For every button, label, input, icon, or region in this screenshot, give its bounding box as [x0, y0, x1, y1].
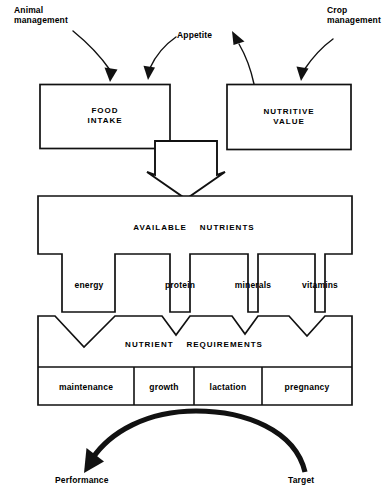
label-cell-maintenance: maintenance [40, 382, 132, 392]
diagram-vector-layer [0, 0, 389, 501]
label-channel-minerals: minerals [222, 280, 284, 290]
label-cell-lactation: lactation [196, 382, 260, 392]
label-nutrient-requirements: NUTRIENT REQUIREMENTS [64, 340, 324, 350]
arrow-target-to-performance-curve [92, 411, 305, 472]
label-crop-management: Crop management [327, 5, 381, 26]
label-target: Target [288, 475, 314, 485]
arrow-nutritive-value-to-appetite-curve [239, 44, 254, 84]
diagram-canvas: Animal management Appetite Crop manageme… [0, 0, 389, 501]
arrowhead-performance [84, 448, 104, 473]
label-performance: Performance [55, 475, 109, 485]
label-animal-management: Animal management [14, 5, 68, 26]
label-cell-growth: growth [135, 382, 193, 392]
arrow-animal-management-curve [73, 31, 110, 70]
label-nutritive-value: NUTRITIVE VALUE [231, 107, 347, 127]
arrow-appetite-to-food-intake-curve [150, 37, 176, 68]
label-cell-pregnancy: pregnancy [269, 382, 345, 392]
label-available-nutrients: AVAILABLE NUTRIENTS [74, 223, 314, 233]
label-appetite: Appetite [177, 30, 212, 40]
arrowhead-appetite-down [144, 66, 156, 80]
arrow-crop-management-curve [304, 39, 333, 70]
big-down-arrow-to-available-nutrients [147, 141, 225, 199]
label-channel-energy: energy [59, 280, 119, 290]
label-food-intake: FOOD INTAKE [50, 106, 160, 126]
label-channel-protein: protein [150, 280, 210, 290]
arrowhead-animal-management [105, 68, 118, 83]
arrowhead-crop-management [297, 67, 309, 82]
label-channel-vitamins: vitamins [289, 280, 351, 290]
arrowhead-appetite-up [232, 31, 245, 45]
box-available-nutrients [38, 196, 352, 312]
